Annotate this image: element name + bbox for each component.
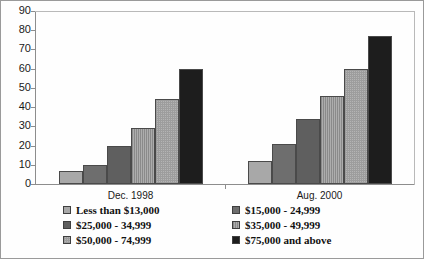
legend-swatch-icon [232, 236, 240, 244]
y-tick-label: 60 [3, 63, 31, 74]
legend-swatch-icon [232, 206, 240, 214]
y-axis: 9080706050403020100 [1, 1, 31, 191]
bar [296, 119, 320, 184]
legend-label: Less than $13,000 [76, 204, 159, 216]
legend-column-left: Less than $13,000$25,000 - 34,999$50,000… [63, 203, 159, 248]
y-tick-label: 10 [3, 159, 31, 170]
bar [107, 146, 131, 184]
bar [368, 36, 392, 184]
bar [272, 144, 296, 184]
legend-label: $75,000 and above [245, 234, 332, 246]
y-tick-mark [31, 30, 35, 31]
y-tick-mark [31, 49, 35, 50]
legend-item[interactable]: $75,000 and above [232, 233, 332, 247]
y-tick-mark [31, 184, 35, 185]
bar [131, 128, 155, 184]
legend-item[interactable]: Less than $13,000 [63, 203, 159, 217]
y-tick-mark [31, 165, 35, 166]
x-group-label: Dec. 1998 [71, 190, 191, 201]
y-tick-mark [31, 146, 35, 147]
y-tick-label: 50 [3, 82, 31, 93]
legend-item[interactable]: $35,000 - 49,999 [232, 218, 332, 232]
y-tick-label: 40 [3, 101, 31, 112]
bar [344, 69, 368, 184]
y-tick-mark [31, 11, 35, 12]
bar [59, 171, 83, 184]
y-tick-label: 90 [3, 5, 31, 16]
x-group-label: Aug. 2000 [260, 190, 380, 201]
legend-item[interactable]: $15,000 - 24,999 [232, 203, 332, 217]
y-tick-mark [31, 69, 35, 70]
bar [320, 96, 344, 184]
bar [83, 165, 107, 184]
y-tick-mark [31, 107, 35, 108]
plot-right-border [414, 11, 415, 185]
legend-swatch-icon [232, 221, 240, 229]
y-tick-label: 30 [3, 120, 31, 131]
chart-legend: Less than $13,000$25,000 - 34,999$50,000… [1, 203, 424, 258]
legend-item[interactable]: $25,000 - 34,999 [63, 218, 159, 232]
legend-label: $50,000 - 74,999 [76, 234, 151, 246]
legend-column-right: $15,000 - 24,999$35,000 - 49,999$75,000 … [232, 203, 332, 248]
bar-chart: 9080706050403020100 Dec. 1998Aug. 2000 L… [0, 0, 424, 259]
bar [155, 99, 179, 184]
plot-area: 9080706050403020100 Dec. 1998Aug. 2000 [1, 1, 424, 191]
y-tick-mark [31, 88, 35, 89]
x-group-tick [225, 184, 226, 189]
y-tick-label: 80 [3, 24, 31, 35]
bar [179, 69, 203, 184]
legend-label: $35,000 - 49,999 [245, 219, 320, 231]
legend-item[interactable]: $50,000 - 74,999 [63, 233, 159, 247]
legend-swatch-icon [63, 206, 71, 214]
y-tick-label: 0 [3, 178, 31, 189]
y-tick-mark [31, 126, 35, 127]
y-tick-label: 20 [3, 140, 31, 151]
legend-swatch-icon [63, 236, 71, 244]
legend-swatch-icon [63, 221, 71, 229]
y-tick-label: 70 [3, 43, 31, 54]
legend-label: $15,000 - 24,999 [245, 204, 320, 216]
bars-layer [36, 11, 414, 184]
legend-label: $25,000 - 34,999 [76, 219, 151, 231]
bar [248, 161, 272, 184]
